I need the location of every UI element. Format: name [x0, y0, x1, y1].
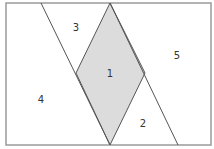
region-label-3: 3 — [73, 22, 79, 33]
region-label-2: 2 — [140, 118, 146, 129]
diagram-canvas: 1 2 3 4 5 — [0, 0, 214, 149]
region-label-5: 5 — [174, 50, 180, 61]
region-label-1: 1 — [107, 68, 113, 79]
region-label-4: 4 — [38, 94, 44, 105]
